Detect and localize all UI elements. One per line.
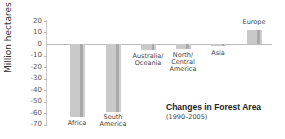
chart-title: Changes in Forest Area xyxy=(166,102,261,112)
category-label-asia: Asia xyxy=(198,50,238,57)
y-tick-label: -50 xyxy=(24,97,42,105)
y-tick xyxy=(44,125,47,126)
y-tick-label: -60 xyxy=(24,109,42,117)
category-text: Africa xyxy=(68,119,87,127)
bar-south-america xyxy=(106,44,121,112)
category-label-europe: Europe xyxy=(234,19,274,26)
y-tick-label: -20 xyxy=(24,63,42,71)
category-text: America xyxy=(163,66,203,73)
category-text: Europe xyxy=(243,18,266,26)
bar-africa xyxy=(70,44,85,117)
y-tick xyxy=(44,102,47,103)
bar-asia xyxy=(211,44,226,46)
y-tick-label: -70 xyxy=(24,120,42,128)
category-label-north-central-america: North/ Central America xyxy=(163,52,203,73)
bar-europe xyxy=(247,30,262,44)
y-tick-label: 0 xyxy=(24,40,42,48)
y-tick xyxy=(44,32,47,33)
y-tick xyxy=(44,90,47,91)
y-tick-label: 20 xyxy=(24,17,42,25)
y-tick xyxy=(44,21,47,22)
y-axis-label: Million hectares xyxy=(3,2,13,73)
y-tick-label: -40 xyxy=(24,86,42,94)
category-label-africa: Africa xyxy=(57,120,97,127)
y-tick-label: 10 xyxy=(24,28,42,36)
category-label-australia-oceania: Australia/ Oceania xyxy=(128,53,168,67)
bar-australia-oceania xyxy=(141,44,156,50)
y-tick-label: -10 xyxy=(24,51,42,59)
bar-north-central-america xyxy=(176,44,191,49)
y-tick-label: -30 xyxy=(24,74,42,82)
y-tick xyxy=(44,67,47,68)
category-label-south-america: South America xyxy=(93,114,133,128)
category-text: Asia xyxy=(211,49,225,57)
y-tick xyxy=(44,56,47,57)
category-text: America xyxy=(93,121,133,128)
category-text: Oceania xyxy=(128,60,168,67)
y-tick xyxy=(44,79,47,80)
forest-area-chart: Million hectares 20 10 0 -10 -20 -30 -40… xyxy=(0,0,285,139)
y-tick xyxy=(44,113,47,114)
chart-subtitle: (1990–2005) xyxy=(166,113,207,121)
y-axis xyxy=(46,20,47,126)
